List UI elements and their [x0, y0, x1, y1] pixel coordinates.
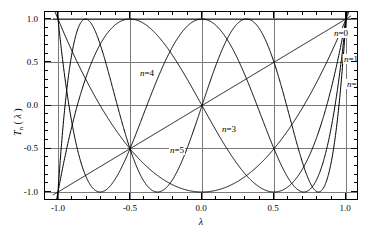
curve-n=2 [53, 12, 351, 192]
series-label-n1: n=1 [343, 54, 358, 64]
series-label-n4: n=4 [139, 68, 155, 78]
series-label-n0: n=0 [333, 28, 349, 38]
y-axis-title: Tn ( λ ) [12, 108, 25, 136]
x-tick-label: 0.5 [253, 203, 293, 213]
series-label-n2: n=2 [346, 79, 358, 89]
y-tick-label: 0.0 [4, 100, 38, 110]
x-tick-label: 1.0 [325, 203, 365, 213]
x-tick-label: -1.0 [38, 203, 78, 213]
y-tick-label: 1.0 [4, 14, 38, 24]
chebyshev-curves [45, 12, 358, 200]
y-tick-label: -1.0 [4, 187, 38, 197]
y-tick-label: -0.5 [4, 143, 38, 153]
series-label-n3: n=3 [221, 124, 237, 134]
chebyshev-polynomial-figure: Tn ( λ ) 1.0 0.5 0.0 -0.5 -1.0 -1.0 -0.5… [0, 0, 376, 240]
x-axis-title: λ [181, 216, 221, 227]
x-tick-label: 0.0 [181, 203, 221, 213]
curve-n=5 [53, 12, 351, 200]
y-tick-label: 0.5 [4, 57, 38, 67]
plot-area: n=0 n=1 n=2 n=4 n=3 n=5 [44, 11, 358, 200]
x-tick-label: -0.5 [110, 203, 150, 213]
series-label-n5: n=5 [169, 145, 185, 155]
